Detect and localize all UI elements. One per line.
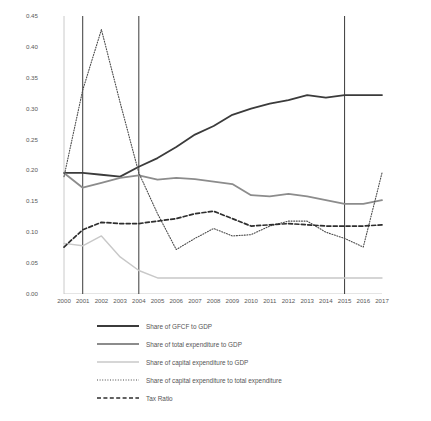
legend-swatch-icon [96, 357, 140, 367]
legend-swatch-icon [96, 339, 140, 349]
chart-container: 0.000.050.100.150.200.250.300.350.400.45… [0, 0, 431, 421]
legend-item: Share of GFCF to GDP [96, 317, 416, 335]
y-tick-label: 0.20 [4, 167, 38, 173]
legend-item: Share of capital expenditure to total ex… [96, 371, 416, 389]
series-line-1 [64, 173, 382, 204]
y-tick-label: 0.30 [4, 106, 38, 112]
legend-item: Share of capital expenditure to GDP [96, 353, 416, 371]
legend-swatch-icon [96, 393, 140, 403]
legend-label: Share of total expenditure to GDP [140, 341, 242, 348]
y-tick-label: 0.45 [4, 13, 38, 19]
legend-swatch-icon [96, 321, 140, 331]
y-tick-label: 0.35 [4, 75, 38, 81]
legend-label: Share of capital expenditure to GDP [140, 359, 248, 366]
y-tick-label: 0.40 [4, 44, 38, 50]
y-axis: 0.000.050.100.150.200.250.300.350.400.45 [0, 0, 38, 294]
y-tick-label: 0.25 [4, 137, 38, 143]
series-line-2 [64, 236, 382, 278]
y-tick-label: 0.05 [4, 260, 38, 266]
legend-item: Tax Ratio [96, 389, 416, 407]
plot-area [40, 16, 388, 294]
y-tick-label: 0.00 [4, 291, 38, 297]
legend-swatch-icon [96, 375, 140, 385]
series-line-4 [64, 211, 382, 247]
legend-item: Share of total expenditure to GDP [96, 335, 416, 353]
legend-label: Share of GFCF to GDP [140, 323, 212, 330]
series-line-3 [64, 30, 382, 250]
y-tick-label: 0.10 [4, 229, 38, 235]
chart-legend: Share of GFCF to GDPShare of total expen… [96, 317, 416, 407]
legend-label: Tax Ratio [140, 395, 173, 402]
y-tick-label: 0.15 [4, 198, 38, 204]
chart-svg [40, 16, 388, 294]
x-tick-label: 2017 [370, 297, 394, 305]
legend-label: Share of capital expenditure to total ex… [140, 377, 282, 384]
x-axis: 2000200120022003200420052006200720082009… [40, 297, 388, 311]
series-line-0 [64, 95, 382, 177]
